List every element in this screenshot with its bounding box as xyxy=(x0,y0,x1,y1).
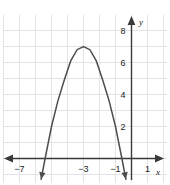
y-axis-label: y xyxy=(138,17,143,27)
y-tick-label: 4 xyxy=(120,90,125,100)
figure-background xyxy=(0,0,170,185)
x-tick-label: −1 xyxy=(110,164,120,174)
x-tick-label: −3 xyxy=(78,164,88,174)
y-tick-label: 8 xyxy=(120,26,125,36)
x-axis-label: x xyxy=(155,167,160,177)
y-tick-label: 6 xyxy=(120,58,125,68)
parabola-graph-svg: −7−3−11 2468 x y xyxy=(0,0,170,185)
graph-figure: −7−3−11 2468 x y xyxy=(0,0,170,185)
x-tick-label: 1 xyxy=(145,164,150,174)
x-tick-label: −7 xyxy=(14,164,24,174)
y-tick-label: 2 xyxy=(120,122,125,132)
